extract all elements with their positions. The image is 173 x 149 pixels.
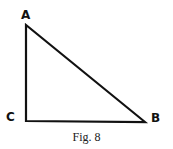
triangle-drawing bbox=[0, 0, 173, 149]
triangle-abc bbox=[26, 25, 145, 122]
vertex-label-a: A bbox=[21, 9, 30, 21]
figure-caption: Fig. 8 bbox=[0, 130, 173, 145]
vertex-label-c: C bbox=[6, 111, 15, 123]
vertex-label-b: B bbox=[151, 112, 160, 124]
triangle-figure: A C B Fig. 8 bbox=[0, 0, 173, 149]
